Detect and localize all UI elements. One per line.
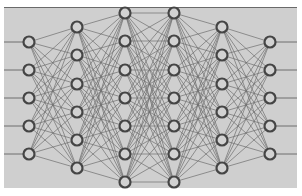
neuron-node [72, 135, 83, 146]
neuron-node [265, 37, 276, 48]
neuron-node [24, 149, 35, 160]
neuron-node [120, 121, 131, 132]
neuron-node [72, 50, 83, 61]
neuron-node [24, 121, 35, 132]
neuron-node [217, 50, 228, 61]
neuron-node [265, 121, 276, 132]
neuron-node [120, 8, 131, 19]
neuron-node [169, 93, 180, 104]
neuron-node [72, 79, 83, 90]
neuron-node [265, 65, 276, 76]
neuron-node [72, 163, 83, 174]
neuron-node [120, 149, 131, 160]
neuron-node [24, 37, 35, 48]
neuron-node [169, 8, 180, 19]
neuron-node [169, 149, 180, 160]
neuron-node [265, 93, 276, 104]
neuron-node [169, 121, 180, 132]
neuron-node [24, 65, 35, 76]
neuron-node [72, 107, 83, 118]
neuron-node [120, 65, 131, 76]
neuron-node [72, 22, 83, 33]
neuron-node [120, 36, 131, 47]
neuron-node [217, 79, 228, 90]
neuron-node [169, 65, 180, 76]
neuron-node [265, 149, 276, 160]
neuron-node [120, 177, 131, 188]
neuron-node [169, 36, 180, 47]
neuron-node [217, 163, 228, 174]
neuron-node [217, 107, 228, 118]
neuron-node [120, 93, 131, 104]
neuron-node [169, 177, 180, 188]
neuron-node [217, 135, 228, 146]
neuron-node [24, 93, 35, 104]
neural-network-diagram [0, 0, 302, 196]
neuron-node [217, 22, 228, 33]
